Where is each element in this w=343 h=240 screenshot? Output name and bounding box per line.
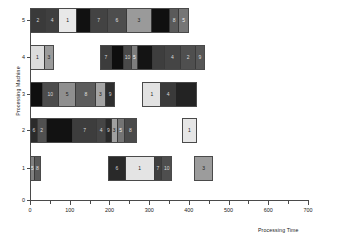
gantt-task-label: 2 xyxy=(37,18,40,23)
gantt-task-segment[interactable]: 7 xyxy=(101,46,113,69)
gantt-task-segment[interactable] xyxy=(112,46,124,69)
gantt-task-label: 2 xyxy=(187,55,190,60)
x-tick-label: 200 xyxy=(105,207,114,213)
y-tick-label: 4 xyxy=(14,54,25,60)
gantt-bar-group[interactable]: 62749358 xyxy=(30,118,137,143)
gantt-bar-group[interactable]: 3 xyxy=(194,156,214,181)
gantt-task-label: 4 xyxy=(171,55,174,60)
x-tick-label: 0 xyxy=(29,207,32,213)
gantt-task-label: 3 xyxy=(99,92,102,97)
gantt-task-segment[interactable]: 8 xyxy=(125,119,137,142)
gantt-task-segment[interactable]: 4 xyxy=(161,83,176,106)
gantt-task-label: 1 xyxy=(138,166,141,171)
gantt-task-segment[interactable]: 5 xyxy=(59,83,76,106)
gantt-task-segment[interactable]: 3 xyxy=(127,9,152,32)
gantt-task-segment[interactable]: 3 xyxy=(96,83,106,106)
gantt-task-segment[interactable]: 2 xyxy=(38,119,47,142)
gantt-task-label: 1 xyxy=(36,55,39,60)
x-tick xyxy=(30,200,31,205)
gantt-task-segment[interactable]: 6 xyxy=(109,157,126,180)
x-tick xyxy=(308,200,309,205)
gantt-task-segment[interactable]: 8 xyxy=(170,9,179,32)
gantt-bar-group[interactable]: 58 xyxy=(30,156,41,181)
gantt-task-label: 1 xyxy=(188,128,191,133)
x-tick-minor xyxy=(90,200,91,204)
gantt-task-segment[interactable]: 1 xyxy=(143,83,161,106)
gantt-task-segment[interactable]: 1 xyxy=(126,157,155,180)
gantt-task-label: 10 xyxy=(48,92,54,97)
x-tick-minor xyxy=(169,200,170,204)
gantt-chart: Processing Machine Processing Time 01002… xyxy=(0,0,343,240)
y-tick-label: 1 xyxy=(14,165,25,171)
gantt-task-segment[interactable]: 9 xyxy=(196,46,204,69)
gantt-task-segment[interactable]: 7 xyxy=(155,157,163,180)
gantt-task-segment[interactable]: 3 xyxy=(195,157,213,180)
gantt-task-segment[interactable]: 10 xyxy=(124,46,131,69)
gantt-task-label: 8 xyxy=(84,92,87,97)
x-tick xyxy=(268,200,269,205)
gantt-bar-group[interactable]: 1 xyxy=(182,118,197,143)
gantt-task-label: 7 xyxy=(104,55,107,60)
gantt-task-label: 10 xyxy=(164,166,170,171)
gantt-task-segment[interactable]: 5 xyxy=(132,46,139,69)
x-tick-label: 300 xyxy=(145,207,154,213)
y-tick-label: 3 xyxy=(14,91,25,97)
gantt-task-segment[interactable] xyxy=(176,83,196,106)
gantt-bar-group[interactable]: 14 xyxy=(142,82,196,107)
x-axis-label: Processing Time xyxy=(258,227,299,233)
gantt-task-segment[interactable] xyxy=(152,9,170,32)
gantt-task-segment[interactable]: 10 xyxy=(43,83,59,106)
gantt-task-label: 8 xyxy=(129,128,132,133)
gantt-task-segment[interactable] xyxy=(47,119,73,142)
x-tick-minor xyxy=(129,200,130,204)
x-tick-label: 600 xyxy=(264,207,273,213)
gantt-task-segment[interactable]: 6 xyxy=(108,9,127,32)
gantt-task-segment[interactable]: 6 xyxy=(31,119,38,142)
gantt-task-segment[interactable]: 1 xyxy=(183,119,196,142)
gantt-task-segment[interactable]: 7 xyxy=(73,119,97,142)
gantt-task-label: 4 xyxy=(167,92,170,97)
gantt-task-segment[interactable]: 1 xyxy=(59,9,77,32)
gantt-bar-group[interactable]: 13 xyxy=(30,45,54,70)
x-tick-label: 700 xyxy=(304,207,313,213)
gantt-task-label: 3 xyxy=(138,18,141,23)
gantt-task-label: 5 xyxy=(66,92,69,97)
gantt-task-segment[interactable]: 10 xyxy=(162,157,171,180)
gantt-task-label: 5 xyxy=(119,128,122,133)
x-tick xyxy=(229,200,230,205)
x-tick xyxy=(149,200,150,205)
gantt-bar-group[interactable]: 24176385 xyxy=(30,8,189,33)
gantt-task-label: 3 xyxy=(113,128,116,133)
gantt-task-segment[interactable] xyxy=(153,46,165,69)
y-tick-label: 0 xyxy=(14,197,25,203)
x-tick xyxy=(109,200,110,205)
gantt-task-segment[interactable]: 8 xyxy=(76,83,96,106)
gantt-task-segment[interactable]: 7 xyxy=(91,9,108,32)
x-tick xyxy=(189,200,190,205)
gantt-task-segment[interactable] xyxy=(77,9,90,32)
y-tick-label: 2 xyxy=(14,127,25,133)
gantt-task-segment[interactable]: 1 xyxy=(31,46,45,69)
gantt-task-label: 1 xyxy=(151,92,154,97)
gantt-task-segment[interactable]: 2 xyxy=(31,9,46,32)
gantt-task-label: 10 xyxy=(125,55,131,60)
gantt-task-label: 6 xyxy=(116,18,119,23)
gantt-task-label: 1 xyxy=(66,18,69,23)
gantt-task-segment[interactable]: 2 xyxy=(181,46,196,69)
gantt-bar-group[interactable]: 105839 xyxy=(30,82,115,107)
gantt-task-segment[interactable]: 5 xyxy=(118,119,125,142)
gantt-task-segment[interactable]: 4 xyxy=(97,119,106,142)
gantt-task-label: 3 xyxy=(202,166,205,171)
gantt-task-segment[interactable]: 4 xyxy=(165,46,181,69)
gantt-task-label: 8 xyxy=(36,166,39,171)
gantt-task-label: 6 xyxy=(116,166,119,171)
gantt-task-segment[interactable]: 8 xyxy=(35,157,40,180)
gantt-bar-group[interactable]: 7105429 xyxy=(100,45,205,70)
gantt-task-segment[interactable]: 9 xyxy=(106,83,115,106)
gantt-task-segment[interactable]: 3 xyxy=(45,46,53,69)
gantt-task-segment[interactable] xyxy=(31,83,43,106)
gantt-task-segment[interactable] xyxy=(138,46,153,69)
gantt-task-segment[interactable]: 5 xyxy=(179,9,188,32)
gantt-bar-group[interactable]: 61710 xyxy=(108,156,172,181)
gantt-task-segment[interactable]: 4 xyxy=(46,9,59,32)
